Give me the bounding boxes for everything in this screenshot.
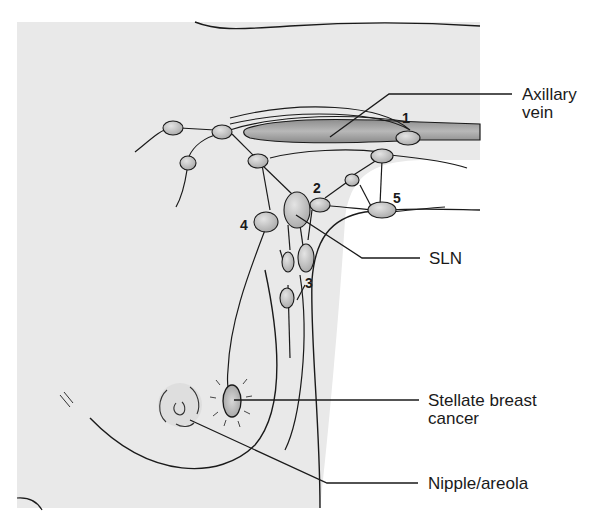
label-nipple-areola: Nipple/areola [428,475,528,493]
node [180,156,196,170]
node-2 [310,198,330,212]
node-1 [396,131,420,145]
node-4 [254,212,278,232]
node [345,174,359,186]
node-number-2: 2 [313,180,321,196]
label-axillary-vein: Axillary vein [522,86,577,122]
node-5 [368,202,396,218]
sentinel-node [284,192,310,228]
node [212,125,232,139]
lymphatic-diagram [0,0,606,522]
node-number-4: 4 [240,217,248,233]
node [248,154,268,168]
node [163,121,183,135]
nipple-areola-shape [158,383,202,427]
skin-region [17,22,480,508]
axillary-vein-shape [244,120,480,143]
node [371,149,393,163]
node-number-1: 1 [402,110,410,126]
node-number-5: 5 [393,190,401,206]
node [298,244,314,272]
node [282,252,294,272]
node-number-3: 3 [305,275,313,291]
label-stellate-cancer: Stellate breast cancer [428,392,537,428]
label-sln: SLN [429,250,462,268]
node-3 [280,288,294,308]
